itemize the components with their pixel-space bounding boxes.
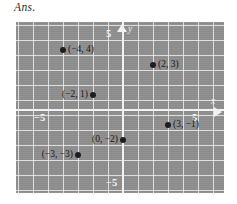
x-axis <box>16 109 224 111</box>
data-point-label: (−2, 1) <box>62 90 88 100</box>
y-axis <box>122 22 124 193</box>
data-point <box>165 122 171 128</box>
data-point <box>75 152 81 158</box>
grid-lines <box>16 22 224 193</box>
y-axis-arrow-icon <box>117 24 127 32</box>
answer-figure: Ans. y x 5 −5 −5 5 (−4, 4)(2, 3)(−2, 1)(… <box>0 0 237 204</box>
data-point-label: (−3, −3) <box>42 150 73 160</box>
coordinate-plane: y x 5 −5 −5 5 (−4, 4)(2, 3)(−2, 1)(3, −1… <box>16 22 224 193</box>
y-axis-tick-minus-5: −5 <box>106 177 117 188</box>
data-point <box>90 92 96 98</box>
data-point <box>120 137 126 143</box>
data-point-label: (2, 3) <box>158 60 179 70</box>
data-point-label: (3, −1) <box>173 120 199 130</box>
data-point-label: (0, −2) <box>92 135 118 145</box>
y-axis-tick-5: 5 <box>106 28 111 39</box>
data-point <box>150 62 156 68</box>
data-point-label: (−4, 4) <box>68 45 94 55</box>
answer-heading: Ans. <box>14 1 36 13</box>
data-point <box>60 47 66 53</box>
x-axis-arrow-icon <box>214 107 222 117</box>
y-axis-label: y <box>128 24 132 34</box>
x-axis-label: x <box>211 96 215 106</box>
x-axis-tick-minus-5: −5 <box>34 112 45 123</box>
